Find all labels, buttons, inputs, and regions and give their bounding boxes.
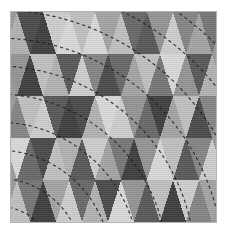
- tessellation-figure: [11, 12, 216, 222]
- tessellation-canvas: [11, 12, 216, 222]
- figure-page: [0, 0, 225, 237]
- triangle-layer: [11, 12, 216, 222]
